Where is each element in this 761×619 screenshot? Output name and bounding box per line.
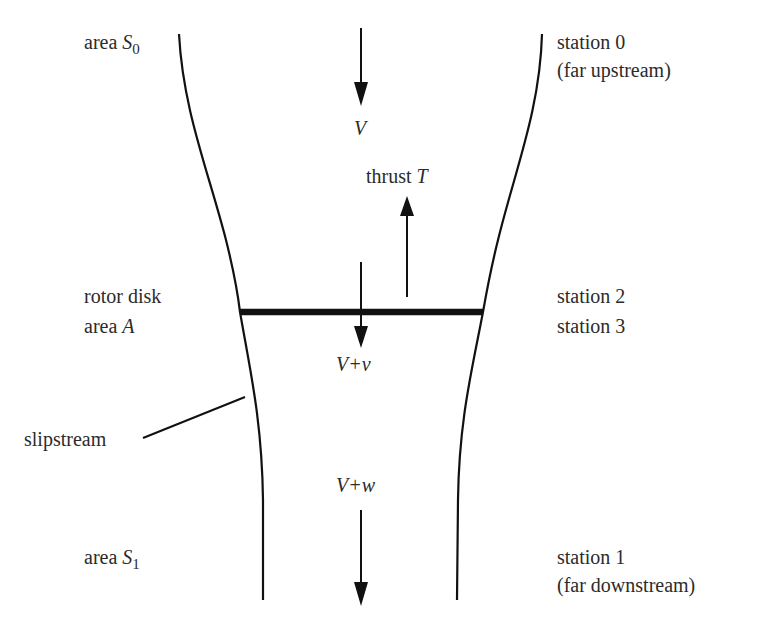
arrow-down-icon (354, 262, 368, 348)
label-station-1: station 1 (557, 545, 625, 569)
label-area-s1: area S1 (84, 545, 140, 571)
symbol-s: S (122, 31, 132, 53)
arrow-down-icon (354, 28, 368, 106)
symbol-s: S (122, 546, 132, 568)
label-velocity-v: V (354, 116, 366, 140)
subscript: 0 (132, 41, 140, 57)
thrust-arrow-up-icon (400, 196, 414, 297)
slipstream-right-boundary (457, 34, 542, 600)
label-text: area (84, 546, 122, 568)
label-text: area (84, 31, 122, 53)
label-thrust-t: thrust T (366, 164, 428, 188)
label-station-3: station 3 (557, 314, 625, 338)
symbol-t: T (417, 165, 428, 187)
label-text: thrust (366, 165, 417, 187)
label-area-a: area A (84, 314, 135, 338)
label-station-0: station 0 (557, 30, 625, 54)
label-velocity-v-plus-w: V+w (336, 473, 375, 497)
label-velocity-v-plus-v: V+v (336, 352, 371, 376)
label-far-upstream: (far upstream) (557, 58, 671, 82)
slipstream-diagram (0, 0, 761, 619)
slipstream-left-boundary (179, 34, 263, 600)
label-rotor-disk: rotor disk (84, 284, 161, 308)
label-area-s0: area S0 (84, 30, 140, 56)
label-slipstream: slipstream (24, 427, 106, 451)
subscript: 1 (132, 556, 140, 572)
label-station-2: station 2 (557, 284, 625, 308)
arrow-down-icon (354, 510, 368, 606)
label-text: area (84, 315, 122, 337)
label-far-downstream: (far downstream) (557, 573, 695, 597)
symbol-a: A (122, 315, 134, 337)
slipstream-leader-line (143, 397, 245, 438)
